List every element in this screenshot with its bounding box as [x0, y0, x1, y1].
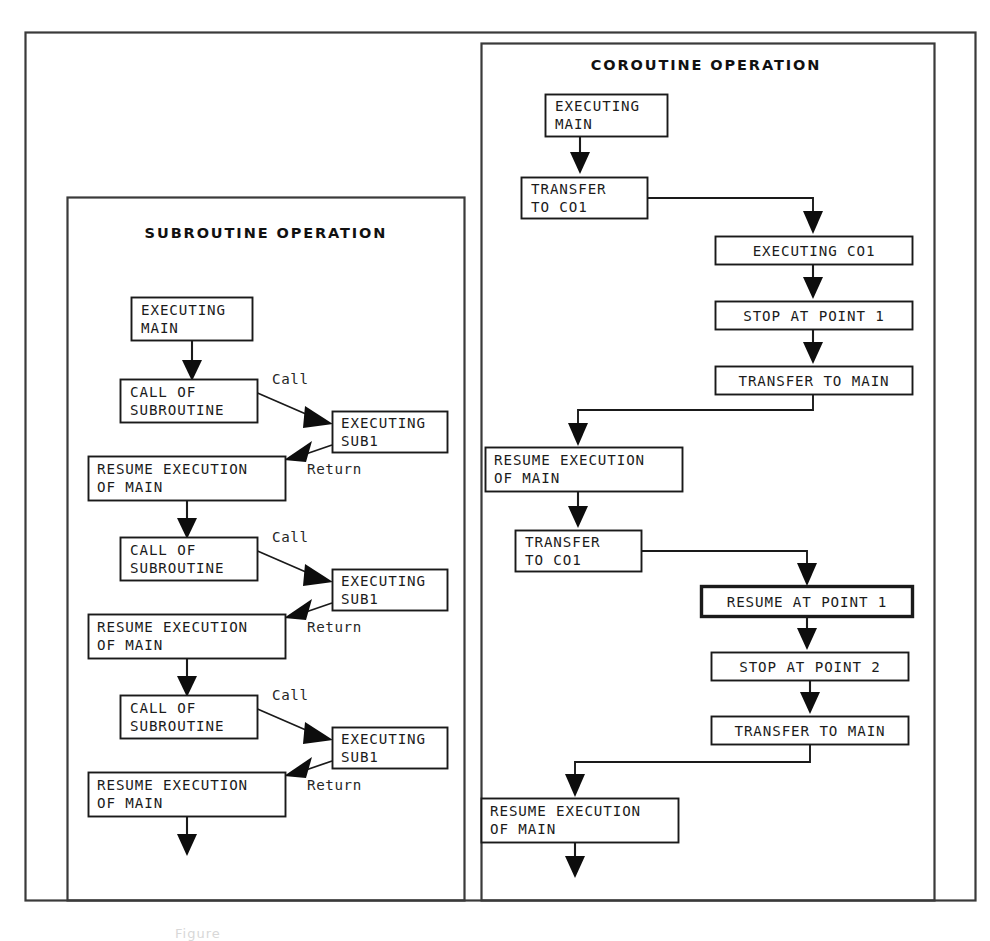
arrow-co-n5-to-n6 [568, 395, 813, 447]
node-co-n3-line-0: EXECUTING CO1 [753, 243, 876, 259]
node-sub-n8: CALL OF SUBROUTINE [121, 696, 258, 739]
node-sub-n5: CALL OF SUBROUTINE [121, 538, 258, 581]
node-sub-n3-line-0: EXECUTING [341, 415, 426, 431]
node-co-n7-line-1: TO CO1 [525, 552, 582, 568]
node-co-n10: TRANSFER TO MAIN [712, 717, 909, 745]
node-sub-n6: EXECUTING SUB1 [333, 570, 448, 611]
arrow-sub-return-3 [284, 757, 332, 778]
edge-label-sub-return-1: Return [307, 461, 362, 477]
edge-label-sub-return-3: Return [307, 777, 362, 793]
node-co-n6-line-0: RESUME EXECUTION [494, 452, 645, 468]
node-co-n7: TRANSFER TO CO1 [516, 531, 642, 572]
node-co-n2-line-1: TO CO1 [531, 199, 588, 215]
node-co-n11: RESUME EXECUTION OF MAIN [482, 799, 679, 843]
panel-subroutine-title: SUBROUTINE OPERATION [145, 225, 388, 241]
node-co-n8: RESUME AT POINT 1 [702, 587, 913, 617]
node-co-n6: RESUME EXECUTION OF MAIN [486, 448, 683, 492]
node-sub-n7-line-1: OF MAIN [97, 637, 163, 653]
edge-label-sub-call-1: Call [272, 371, 309, 387]
arrow-sub-n7-to-n8 [177, 659, 197, 698]
node-co-n6-line-1: OF MAIN [494, 470, 560, 486]
node-sub-n10-line-1: OF MAIN [97, 795, 163, 811]
node-sub-n7: RESUME EXECUTION OF MAIN [89, 615, 286, 659]
arrow-sub-call-1 [258, 393, 334, 428]
edge-label-sub-return-2: Return [307, 619, 362, 635]
figure-root: SUBROUTINE OPERATION EXECUTING MAIN CALL… [0, 0, 990, 941]
arrow-sub-call-3 [258, 709, 334, 744]
node-sub-n9-line-1: SUB1 [341, 749, 379, 765]
node-sub-n1-line-0: EXECUTING [141, 302, 226, 318]
edge-label-sub-call-3: Call [272, 687, 309, 703]
node-co-n1-line-1: MAIN [555, 116, 593, 132]
arrow-sub-return-1 [284, 441, 332, 462]
node-co-n8-line-0: RESUME AT POINT 1 [727, 594, 888, 610]
arrow-sub-n4-to-n5 [177, 501, 197, 540]
node-sub-n2-line-0: CALL OF [130, 384, 196, 400]
arrow-co-n4-to-n5 [803, 330, 823, 365]
node-sub-n9: EXECUTING SUB1 [333, 728, 448, 769]
node-co-n5: TRANSFER TO MAIN [716, 367, 913, 395]
node-sub-n4: RESUME EXECUTION OF MAIN [89, 457, 286, 501]
panel-coroutine: COROUTINE OPERATION EXECUTING MAIN TRANS… [482, 44, 935, 901]
node-sub-n6-line-0: EXECUTING [341, 573, 426, 589]
node-sub-n10: RESUME EXECUTION OF MAIN [89, 773, 286, 817]
node-sub-n4-line-0: RESUME EXECUTION [97, 461, 248, 477]
node-sub-n1: EXECUTING MAIN [132, 298, 253, 341]
node-sub-n1-line-1: MAIN [141, 320, 179, 336]
arrow-co-n3-to-n4 [803, 265, 823, 300]
node-sub-n5-line-0: CALL OF [130, 542, 196, 558]
node-co-n4: STOP AT POINT 1 [716, 302, 913, 330]
arrow-sub-n1-to-n2 [182, 341, 202, 382]
node-sub-n7-line-0: RESUME EXECUTION [97, 619, 248, 635]
node-sub-n10-line-0: RESUME EXECUTION [97, 777, 248, 793]
node-co-n2-line-0: TRANSFER [531, 181, 607, 197]
arrow-co-n1-to-n2 [570, 137, 590, 175]
node-sub-n3-line-1: SUB1 [341, 433, 379, 449]
arrow-co-n10-to-n11 [565, 745, 810, 798]
arrow-sub-call-2 [258, 551, 334, 586]
node-sub-n8-line-1: SUBROUTINE [130, 718, 224, 734]
node-co-n4-line-0: STOP AT POINT 1 [743, 308, 885, 324]
arrow-co-n6-to-n7 [568, 492, 588, 529]
node-sub-n2: CALL OF SUBROUTINE [121, 380, 258, 423]
node-sub-n6-line-1: SUB1 [341, 591, 379, 607]
node-sub-n8-line-0: CALL OF [130, 700, 196, 716]
node-co-n1: EXECUTING MAIN [546, 95, 668, 137]
node-co-n5-line-0: TRANSFER TO MAIN [738, 373, 889, 389]
node-co-n9: STOP AT POINT 2 [712, 653, 909, 681]
node-sub-n9-line-0: EXECUTING [341, 731, 426, 747]
edge-label-sub-call-2: Call [272, 529, 309, 545]
figure-caption: Figure [175, 926, 221, 941]
node-co-n2: TRANSFER TO CO1 [522, 178, 648, 219]
arrow-co-n8-to-n9 [797, 617, 817, 651]
arrow-co-terminal [565, 843, 585, 879]
flowchart-canvas: SUBROUTINE OPERATION EXECUTING MAIN CALL… [0, 0, 990, 941]
node-co-n3: EXECUTING CO1 [716, 237, 913, 265]
arrow-sub-terminal [177, 817, 197, 857]
node-sub-n2-line-1: SUBROUTINE [130, 402, 224, 418]
node-co-n10-line-0: TRANSFER TO MAIN [734, 723, 885, 739]
node-co-n11-line-0: RESUME EXECUTION [490, 803, 641, 819]
node-sub-n3: EXECUTING SUB1 [333, 412, 448, 453]
node-sub-n4-line-1: OF MAIN [97, 479, 163, 495]
node-co-n11-line-1: OF MAIN [490, 821, 556, 837]
panel-subroutine: SUBROUTINE OPERATION EXECUTING MAIN CALL… [68, 198, 465, 901]
node-co-n1-line-0: EXECUTING [555, 98, 640, 114]
node-sub-n5-line-1: SUBROUTINE [130, 560, 224, 576]
node-co-n7-line-0: TRANSFER [525, 534, 601, 550]
arrow-co-n9-to-n10 [800, 681, 820, 715]
arrow-sub-return-2 [284, 599, 332, 620]
panel-coroutine-title: COROUTINE OPERATION [591, 57, 822, 73]
node-co-n9-line-0: STOP AT POINT 2 [739, 659, 881, 675]
arrow-co-n2-to-n3 [648, 198, 824, 234]
arrow-co-n7-to-n8 [642, 551, 818, 586]
